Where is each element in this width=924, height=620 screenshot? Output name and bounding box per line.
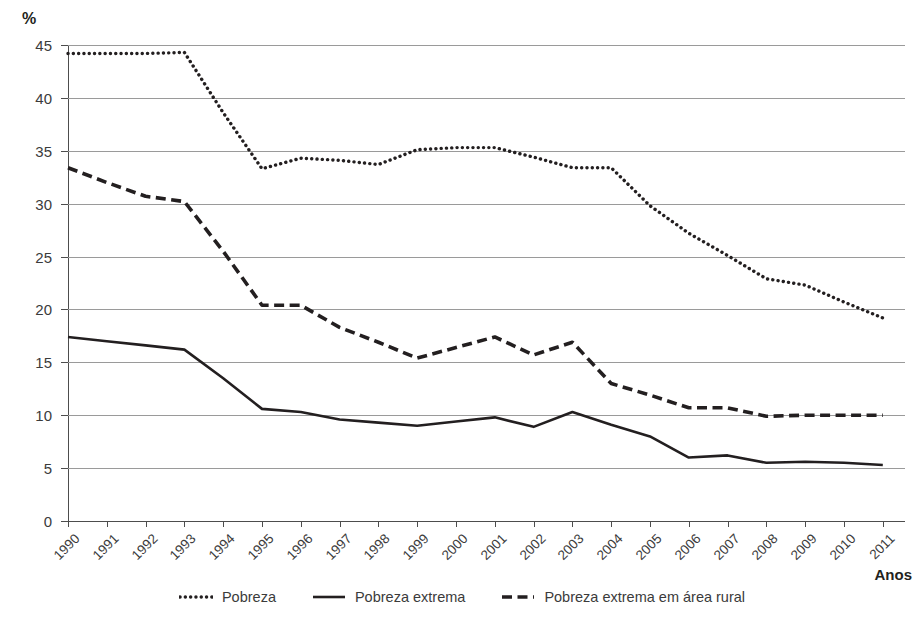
- y-tick-mark: [61, 45, 68, 46]
- y-tick-mark: [61, 468, 68, 469]
- plot-area: [68, 45, 905, 521]
- poverty-line-chart: % 051015202530354045 1990199119921993199…: [0, 0, 924, 620]
- y-tick-label: 30: [16, 195, 52, 212]
- x-tick-label: 2006: [666, 531, 703, 568]
- x-tick-mark: [340, 521, 341, 527]
- y-tick-label: 25: [16, 248, 52, 265]
- series-line-solid: [68, 337, 883, 465]
- x-tick-label: 2011: [860, 531, 897, 568]
- x-tick-mark: [417, 521, 418, 527]
- x-tick-label: 2007: [705, 531, 742, 568]
- x-tick-mark: [883, 521, 884, 527]
- legend-label: Pobreza extrema: [355, 589, 465, 605]
- legend-swatch-dotted: [179, 591, 213, 603]
- x-axis-title: Anos: [875, 566, 913, 583]
- x-tick-mark: [378, 521, 379, 527]
- x-tick-label: 1991: [84, 531, 121, 568]
- chart-legend: PobrezaPobreza extremaPobreza extrema em…: [0, 589, 924, 605]
- x-tick-label: 1999: [394, 531, 431, 568]
- x-tick-mark: [572, 521, 573, 527]
- x-tick-label: 1996: [278, 531, 315, 568]
- legend-swatch-solid: [312, 591, 346, 603]
- y-tick-label: 0: [16, 513, 52, 530]
- legend-swatch-dashed: [501, 591, 535, 603]
- x-tick-label: 2004: [588, 531, 625, 568]
- y-tick-mark: [61, 257, 68, 258]
- x-tick-label: 1998: [356, 531, 393, 568]
- legend-item-0[interactable]: Pobreza: [179, 589, 276, 605]
- legend-label: Pobreza: [222, 589, 276, 605]
- x-tick-mark: [534, 521, 535, 527]
- x-tick-mark: [107, 521, 108, 527]
- x-tick-mark: [611, 521, 612, 527]
- x-tick-label: 2010: [821, 531, 858, 568]
- x-tick-label: 2009: [782, 531, 819, 568]
- legend-item-2[interactable]: Pobreza extrema em área rural: [501, 589, 745, 605]
- x-tick-mark: [689, 521, 690, 527]
- x-tick-label: 1993: [162, 531, 199, 568]
- series-line-dotted: [68, 52, 883, 318]
- x-tick-label: 2001: [472, 531, 509, 568]
- x-tick-label: 1992: [123, 531, 160, 568]
- x-tick-label: 2003: [550, 531, 587, 568]
- y-axis-unit-label: %: [22, 10, 36, 28]
- legend-label: Pobreza extrema em área rural: [544, 589, 745, 605]
- series-paths: [68, 45, 905, 521]
- legend-item-1[interactable]: Pobreza extrema: [312, 589, 465, 605]
- x-tick-mark: [223, 521, 224, 527]
- y-tick-label: 20: [16, 301, 52, 318]
- x-tick-mark: [728, 521, 729, 527]
- x-axis-line: [68, 521, 905, 522]
- x-tick-mark: [301, 521, 302, 527]
- x-tick-mark: [262, 521, 263, 527]
- x-tick-mark: [766, 521, 767, 527]
- x-tick-label: 2002: [511, 531, 548, 568]
- y-tick-label: 5: [16, 460, 52, 477]
- y-tick-label: 45: [16, 37, 52, 54]
- x-tick-mark: [495, 521, 496, 527]
- y-tick-mark: [61, 362, 68, 363]
- x-tick-label: 2000: [433, 531, 470, 568]
- y-tick-mark: [61, 204, 68, 205]
- y-tick-mark: [61, 98, 68, 99]
- series-line-dashed: [68, 168, 883, 417]
- x-tick-mark: [68, 521, 69, 527]
- y-tick-label: 40: [16, 89, 52, 106]
- x-tick-label: 1990: [45, 531, 82, 568]
- x-tick-mark: [650, 521, 651, 527]
- x-tick-label: 2008: [744, 531, 781, 568]
- x-tick-mark: [184, 521, 185, 527]
- y-tick-label: 10: [16, 407, 52, 424]
- y-tick-mark: [61, 309, 68, 310]
- y-tick-mark: [61, 415, 68, 416]
- x-tick-mark: [844, 521, 845, 527]
- x-tick-mark: [805, 521, 806, 527]
- x-tick-mark: [146, 521, 147, 527]
- x-tick-label: 1994: [200, 531, 237, 568]
- y-tick-label: 15: [16, 354, 52, 371]
- x-tick-label: 2005: [627, 531, 664, 568]
- x-tick-label: 1997: [317, 531, 354, 568]
- y-tick-mark: [61, 151, 68, 152]
- x-tick-mark: [456, 521, 457, 527]
- y-tick-mark: [61, 521, 68, 522]
- y-tick-label: 35: [16, 142, 52, 159]
- x-tick-label: 1995: [239, 531, 276, 568]
